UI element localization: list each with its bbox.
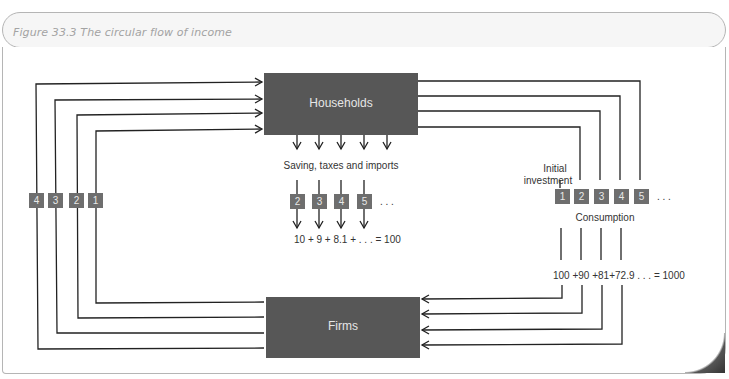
- svg-text:. . .: . . .: [657, 191, 671, 202]
- svg-text:4: 4: [339, 196, 345, 207]
- left-loop-markers: 4 3 2 1: [29, 193, 103, 208]
- households-label: Households: [309, 96, 372, 110]
- svg-text:. . .: . . .: [380, 196, 394, 207]
- svg-text:2: 2: [74, 195, 80, 206]
- svg-text:5: 5: [362, 196, 368, 207]
- svg-text:3: 3: [599, 191, 605, 202]
- consumption-sum: 100 +90 +81+72.9 . . . = 1000: [553, 270, 685, 281]
- svg-text:1: 1: [93, 195, 99, 206]
- svg-text:3: 3: [53, 195, 59, 206]
- initial-investment-label-1: Initial: [543, 163, 566, 174]
- initial-investment-label-2: investment: [524, 175, 573, 186]
- svg-text:2: 2: [579, 191, 585, 202]
- leakage-label: Saving, taxes and imports: [283, 160, 398, 171]
- leakage-sum: 10 + 9 + 8.1 + . . . = 100: [294, 234, 401, 245]
- svg-text:4: 4: [619, 191, 625, 202]
- svg-text:1: 1: [560, 191, 566, 202]
- firms-box: Firms: [266, 297, 420, 358]
- svg-text:4: 4: [34, 195, 40, 206]
- injection-markers: 1 2 3 4 5 . . .: [555, 189, 671, 204]
- circular-flow-diagram: Households Firms 4 3 2 1 Saving, taxes a…: [0, 0, 729, 379]
- firms-label: Firms: [328, 319, 358, 333]
- consumption-label: Consumption: [576, 212, 635, 223]
- households-box: Households: [264, 73, 418, 135]
- svg-text:3: 3: [317, 196, 323, 207]
- leakage-markers: 2 3 4 5 . . .: [290, 194, 394, 209]
- svg-text:2: 2: [295, 196, 301, 207]
- svg-text:5: 5: [639, 191, 645, 202]
